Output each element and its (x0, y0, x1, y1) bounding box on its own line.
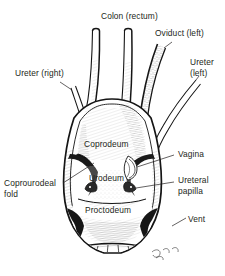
label-coprourodeal-fold-line2: fold (4, 189, 18, 200)
artist-signature (152, 248, 178, 260)
label-ureteral-papilla-line2: papilla (178, 186, 203, 197)
label-proctodeum: Proctodeum (85, 205, 131, 216)
cloaca-anatomy-figure: Colon (rectum) Oviduct (left) Ureter (le… (0, 0, 225, 276)
label-urodeum: Urodeum (89, 173, 124, 184)
label-coprourodeal-fold-line1: Coprourodeal (4, 178, 56, 189)
cloaca-illustration (0, 0, 225, 276)
leader-oviduct-left (164, 42, 172, 48)
label-ureter-right: Ureter (right) (15, 68, 64, 79)
label-ureter-left-line1: Ureter (190, 57, 214, 68)
leader-vent (172, 218, 186, 226)
label-vent: Vent (188, 214, 205, 225)
label-vagina: Vagina (178, 149, 204, 160)
label-oviduct-left: Oviduct (left) (155, 28, 204, 39)
leader-ureter-right (60, 82, 72, 90)
label-coprodeum: Coprodeum (84, 139, 129, 150)
label-ureter-left-line2: (left) (190, 68, 207, 79)
label-ureteral-papilla-line1: Ureteral (178, 175, 209, 186)
label-colon-rectum: Colon (rectum) (101, 11, 158, 22)
